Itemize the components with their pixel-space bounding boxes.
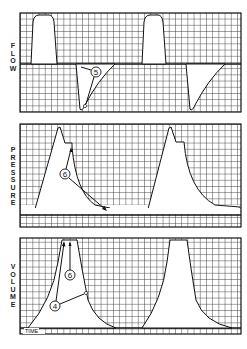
inspiratory-flow-wave-1 [31,15,57,64]
flow-letter: O [8,57,18,65]
flow-letter: F [8,42,18,50]
volume-panel: 6 4 [20,238,241,334]
svg-text:6: 6 [63,170,68,179]
pressure-letter: S [8,169,18,177]
pressure-letter: R [8,154,18,162]
volume-letter: L [8,278,18,286]
pressure-panel: 6 [20,124,241,227]
pressure-letter: E [8,161,18,169]
pressure-letter: S [8,176,18,184]
flow-letter: L [8,50,18,58]
pressure-axis-label: P R E S S U R E [8,146,18,207]
svg-text:4: 4 [53,302,58,311]
ventilator-waveform-diagram: 5 6 [0,0,247,349]
flow-axis-label: F L O W [8,42,18,72]
svg-text:5: 5 [94,68,99,77]
pressure-letter: E [8,199,18,207]
volume-axis-label: V O L U M E [8,263,18,309]
flow-letter: W [8,65,18,73]
volume-letter: O [8,271,18,279]
pressure-letter: P [8,146,18,154]
time-axis-label: TIME [24,328,39,334]
volume-letter: E [8,301,18,309]
volume-letter: M [8,293,18,301]
volume-letter: U [8,286,18,294]
volume-letter: V [8,263,18,271]
flow-panel: 5 [20,13,241,112]
pressure-letter: U [8,184,18,192]
inspiratory-flow-wave-2 [142,15,166,64]
pressure-letter: R [8,192,18,200]
svg-text:6: 6 [68,271,73,280]
